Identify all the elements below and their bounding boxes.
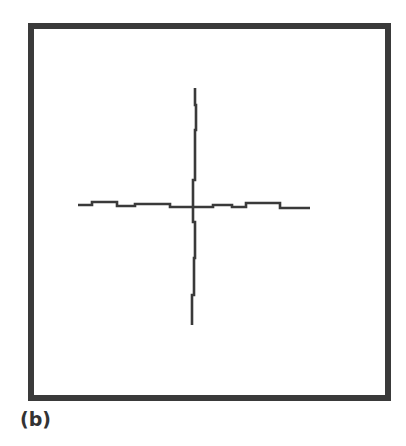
cross-trace [0,0,406,446]
figure-label: (b) [20,408,51,430]
